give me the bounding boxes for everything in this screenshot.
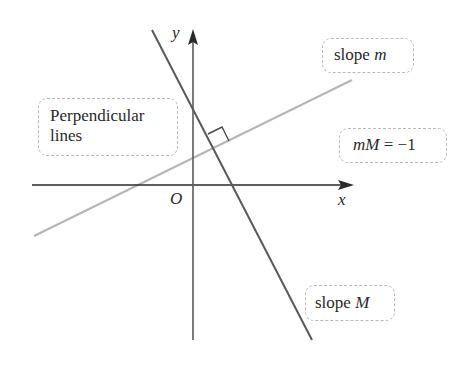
slope-m-box: slope m	[322, 38, 414, 73]
slope-M-prefix: slope	[315, 293, 355, 312]
y-axis-label: y	[172, 23, 180, 43]
relation-rhs: −1	[398, 135, 416, 154]
origin-label: O	[170, 189, 182, 209]
perpendicular-lines-box: Perpendicular lines	[38, 98, 178, 156]
slope-m-prefix: slope	[334, 45, 374, 64]
relation-eq: =	[379, 135, 397, 154]
slope-M-var: M	[355, 293, 369, 312]
x-axis-label: x	[338, 190, 346, 210]
relation-box: mM = −1	[339, 128, 447, 163]
slope-m-var: m	[374, 45, 386, 64]
right-angle-marker-icon	[208, 127, 229, 141]
slope-M-box: slope M	[305, 285, 395, 321]
title-line-1: Perpendicular	[50, 106, 177, 126]
title-line-2: lines	[50, 126, 177, 146]
relation-lhs: mM	[353, 135, 379, 154]
